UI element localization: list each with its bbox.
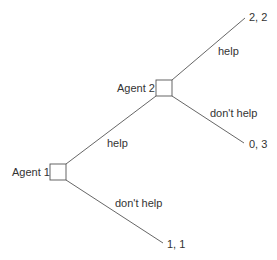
game-tree-lines bbox=[0, 0, 277, 260]
edge-agent2-dont-help bbox=[172, 96, 244, 143]
payoff-help-help: 2, 2 bbox=[249, 11, 267, 23]
edge-label-agent1-help: help bbox=[107, 137, 128, 149]
node-agent1-box bbox=[50, 164, 66, 180]
edge-label-agent1-dont-help: don't help bbox=[115, 197, 162, 209]
payoff-dont-help: 1, 1 bbox=[167, 238, 185, 250]
node-agent2-label: Agent 2 bbox=[117, 82, 155, 94]
node-agent2-box bbox=[156, 80, 172, 96]
payoff-help-dont-help: 0, 3 bbox=[249, 138, 267, 150]
edge-agent1-dont-help bbox=[66, 180, 163, 243]
edge-label-agent2-help: help bbox=[218, 45, 239, 57]
node-agent1-label: Agent 1 bbox=[12, 166, 50, 178]
edge-label-agent2-dont-help: don't help bbox=[210, 107, 257, 119]
edge-agent1-help bbox=[66, 96, 156, 164]
